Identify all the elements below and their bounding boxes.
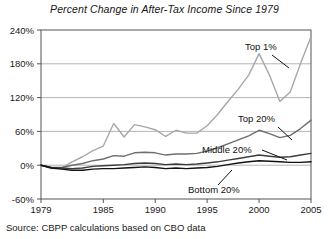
series-line xyxy=(41,37,311,169)
chart-figure: Percent Change in After-Tax Income Since… xyxy=(0,0,329,239)
x-axis-tick-label: 2005 xyxy=(300,204,321,215)
leader-line-bottom20 xyxy=(218,170,232,185)
line-chart: 240%180%120%60%0%-60% 197919851990199520… xyxy=(0,0,329,220)
leader-line-top1 xyxy=(272,55,289,68)
x-axis-tick-label: 1979 xyxy=(30,204,51,215)
y-axis-tick-label: 0% xyxy=(20,160,34,171)
x-axis-tick-label: 2000 xyxy=(249,204,270,215)
series-label-middle20: Middle 20% xyxy=(202,144,252,155)
y-axis-tick-labels: 240%180%120%60%0%-60% xyxy=(10,25,35,205)
y-axis-ticks xyxy=(37,30,41,199)
x-axis-tick-label: 1985 xyxy=(93,204,114,215)
series-line xyxy=(41,120,311,167)
y-axis-tick-label: 120% xyxy=(10,92,35,103)
x-axis-tick-labels: 197919851990199520002005 xyxy=(30,204,321,215)
y-axis-tick-label: 180% xyxy=(10,58,35,69)
y-axis-tick-label: 240% xyxy=(10,25,35,36)
y-axis-tick-label: 60% xyxy=(15,126,35,137)
series-label-bottom20: Bottom 20% xyxy=(188,184,240,195)
series-label-top20: Top 20% xyxy=(238,113,276,124)
series-lines xyxy=(41,37,311,171)
source-note: Source: CBPP calculations based on CBO d… xyxy=(6,222,205,233)
x-axis-tick-label: 1995 xyxy=(197,204,218,215)
leader-line-middle20 xyxy=(262,150,287,160)
x-axis-ticks xyxy=(41,199,311,203)
y-axis-tick-label: -60% xyxy=(12,194,35,205)
series-label-top1: Top 1% xyxy=(245,41,277,52)
x-axis-tick-label: 1990 xyxy=(145,204,166,215)
